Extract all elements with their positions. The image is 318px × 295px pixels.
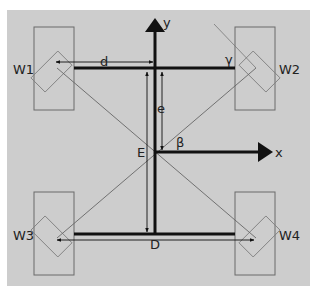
axis-label-x: x bbox=[275, 145, 283, 160]
dimension-label-e: e bbox=[157, 101, 165, 116]
wheel-label-w4: W4 bbox=[279, 228, 300, 243]
wheel-label-w1: W1 bbox=[13, 62, 34, 77]
mecanum-chassis-diagram: W1 W2 W3 W4 y x d e E D β γ bbox=[0, 0, 318, 295]
dimension-label-E: E bbox=[137, 145, 145, 160]
dimension-label-d: d bbox=[100, 54, 108, 69]
wheel-label-w2: W2 bbox=[279, 62, 300, 77]
angle-label-beta: β bbox=[176, 135, 184, 150]
angle-label-gamma: γ bbox=[225, 52, 233, 67]
axis-label-y: y bbox=[163, 15, 171, 30]
wheel-label-w3: W3 bbox=[13, 228, 34, 243]
dimension-label-D: D bbox=[150, 237, 160, 252]
